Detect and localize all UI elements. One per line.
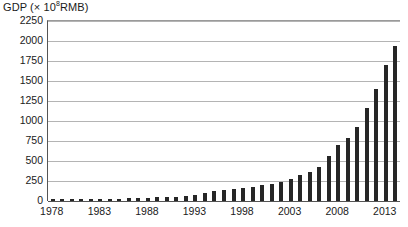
y-tick-label: 0 <box>3 194 43 206</box>
bar-1991 <box>174 197 178 201</box>
x-tick-label: 2008 <box>325 205 348 217</box>
bar-1979 <box>60 199 64 201</box>
bar-1981 <box>79 199 83 201</box>
y-tick-label: 1500 <box>3 74 43 86</box>
y-axis-title-suffix: RMB) <box>60 1 89 13</box>
y-tick-label: 250 <box>3 174 43 186</box>
bar-1997 <box>232 189 236 201</box>
bar-2001 <box>270 184 274 201</box>
x-tick-label: 1983 <box>88 205 111 217</box>
bar-2013 <box>384 65 388 201</box>
bar-2000 <box>260 185 264 201</box>
gdp-bar-chart: GDP (× 108RMB) 2250200017501500125010007… <box>0 0 408 227</box>
bar-2007 <box>327 156 331 201</box>
bar-1984 <box>108 199 112 201</box>
x-tick-label: 1978 <box>40 205 63 217</box>
bar-1993 <box>193 195 197 201</box>
bar-2010 <box>355 127 359 201</box>
y-tick-label: 500 <box>3 154 43 166</box>
bar-2003 <box>289 179 293 201</box>
x-tick-label: 1988 <box>135 205 158 217</box>
bar-1992 <box>184 196 188 201</box>
y-tick-label: 1250 <box>3 94 43 106</box>
x-tick-label: 1998 <box>230 205 253 217</box>
bar-1983 <box>98 199 102 201</box>
y-tick-label: 2000 <box>3 34 43 46</box>
bar-1982 <box>89 199 93 201</box>
bar-1980 <box>70 199 74 201</box>
bar-2012 <box>374 89 378 201</box>
bar-1990 <box>165 197 169 201</box>
y-axis-tick-labels: 2250200017501500125010007505002500 <box>0 0 43 227</box>
bar-2009 <box>346 138 350 201</box>
bar-1996 <box>222 190 226 201</box>
y-tick-label: 750 <box>3 134 43 146</box>
x-tick-label: 2003 <box>278 205 301 217</box>
bar-2006 <box>317 167 321 201</box>
bar-1999 <box>251 187 255 201</box>
bar-2002 <box>279 182 283 201</box>
x-tick-label: 1993 <box>183 205 206 217</box>
bar-1985 <box>117 199 121 201</box>
bar-1998 <box>241 188 245 201</box>
bar-1994 <box>203 193 207 201</box>
plot-area <box>47 20 400 201</box>
y-tick-label: 1000 <box>3 114 43 126</box>
bar-1987 <box>136 198 140 201</box>
bar-2011 <box>365 108 369 201</box>
bar-1986 <box>127 198 131 201</box>
bar-1989 <box>155 197 159 201</box>
bar-2014 <box>393 46 397 201</box>
bar-1988 <box>146 198 150 201</box>
bar-1995 <box>212 191 216 201</box>
x-tick-label: 2013 <box>373 205 396 217</box>
gridline-0 <box>48 201 400 202</box>
bar-1978 <box>51 199 55 201</box>
bar-2004 <box>298 175 302 201</box>
y-tick-label: 1750 <box>3 54 43 66</box>
y-tick-label: 2250 <box>3 14 43 26</box>
bar-2005 <box>308 172 312 201</box>
bar-series <box>48 21 400 201</box>
bar-2008 <box>336 145 340 201</box>
